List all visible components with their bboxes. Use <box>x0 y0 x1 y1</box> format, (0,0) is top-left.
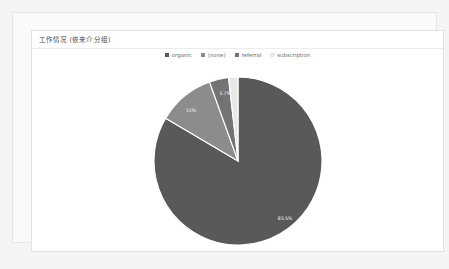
card-title: 工作情况 (依来介分组) <box>32 36 110 44</box>
pie-slice-label: 83.5% <box>277 216 292 221</box>
pie-chart[interactable]: 83.5%11%3.7% <box>148 71 328 251</box>
chart-body: organic (none) referral subscription <box>32 49 443 251</box>
card-header: 工作情况 (依来介分组) <box>32 31 443 49</box>
chart-card: 工作情况 (依来介分组) organic (none) referral <box>31 30 444 252</box>
pie-chart-area: 83.5%11%3.7% <box>32 49 443 251</box>
pie-slice-label: 3.7% <box>219 91 231 96</box>
outer-panel: 工作情况 (依来介分组) organic (none) referral <box>12 12 437 243</box>
pie-slice-label: 11% <box>185 108 196 113</box>
page-background: 工作情况 (依来介分组) organic (none) referral <box>0 0 449 269</box>
